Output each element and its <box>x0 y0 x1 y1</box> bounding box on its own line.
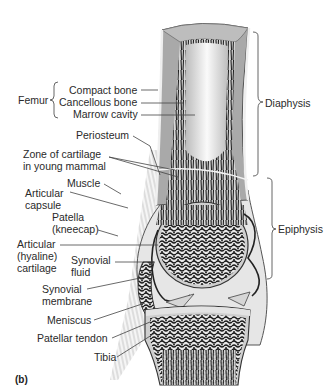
label-patella-1: Patella <box>52 211 84 223</box>
label-articular-cartilage-1: Articular <box>17 238 56 250</box>
label-compact-bone: Compact bone <box>69 84 137 96</box>
label-periosteum: Periosteum <box>76 129 129 141</box>
label-zone-cartilage-2: in young mammal <box>23 160 106 172</box>
epiphysis-brace <box>267 178 276 279</box>
label-cancellous-bone: Cancellous bone <box>59 96 137 108</box>
label-zone-cartilage-1: Zone of cartilage <box>23 148 101 160</box>
femur-brace <box>50 82 58 118</box>
label-articular-capsule-1: Articular <box>25 187 64 199</box>
label-synovial-membrane-2: membrane <box>42 295 92 307</box>
label-articular-cartilage-3: cartilage <box>17 262 57 274</box>
label-muscle: Muscle <box>67 177 100 189</box>
label-diaphysis: Diaphysis <box>265 97 311 109</box>
label-epiphysis: Epiphysis <box>278 223 323 235</box>
label-marrow-cavity: Marrow cavity <box>73 108 139 120</box>
label-tibia: Tibia <box>94 351 117 363</box>
panel-label: (b) <box>15 374 28 385</box>
label-patella-2: (kneecap) <box>52 223 99 235</box>
femur-condyle <box>156 202 248 288</box>
label-articular-cartilage-2: (hyaline) <box>17 250 57 262</box>
label-synovial-fluid-1: Synovial <box>71 254 111 266</box>
label-synovial-membrane-1: Synovial <box>42 283 82 295</box>
diaphysis-brace <box>253 32 263 176</box>
label-femur: Femur <box>18 94 49 106</box>
femur-shaft <box>156 23 249 210</box>
label-synovial-fluid-2: fluid <box>71 266 90 278</box>
tibia-shape <box>145 306 250 385</box>
knee-joint-diagram: Femur Compact bone Cancellous bone Marro… <box>0 0 335 388</box>
label-articular-capsule-2: capsule <box>25 199 61 211</box>
label-meniscus: Meniscus <box>47 314 91 326</box>
label-patellar-tendon: Patellar tendon <box>37 332 108 344</box>
